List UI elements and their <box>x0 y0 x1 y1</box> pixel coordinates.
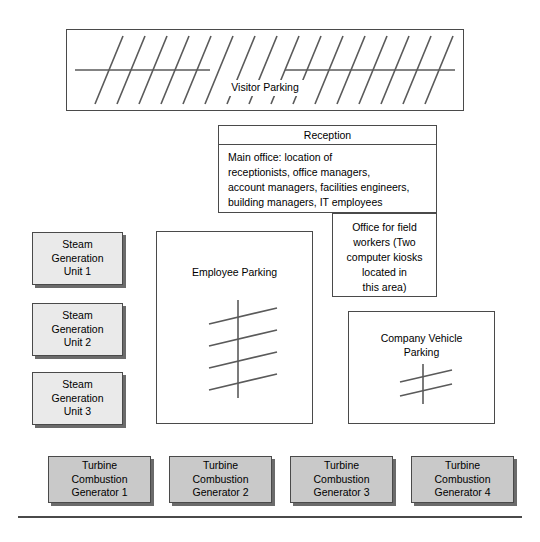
reception-body-line-2: receptionists, office managers, <box>228 165 370 180</box>
field-office-line-2: workers (Two <box>333 235 436 250</box>
employee-parking-label: Employee Parking <box>157 266 312 280</box>
site-boundary-line <box>18 516 522 518</box>
steam-generation-unit-2: Steam Generation Unit 2 <box>32 303 123 356</box>
company-vehicle-parking-area: Company Vehicle Parking <box>348 311 495 424</box>
steam-unit-1-label: Steam Generation Unit 1 <box>52 238 104 278</box>
employee-parking-area: Employee Parking <box>156 231 313 424</box>
field-office-line-1: Office for field <box>333 220 436 235</box>
turbine-1-label: Turbine Combustion Generator 1 <box>71 459 127 499</box>
turbine-combustion-generator-3: Turbine Combustion Generator 3 <box>290 456 393 503</box>
site-layout-diagram: Visitor Parking Reception Main office: l… <box>0 0 540 542</box>
turbine-combustion-generator-2: Turbine Combustion Generator 2 <box>169 456 272 503</box>
reception-body-line-4: building managers, IT employees <box>228 195 382 210</box>
company-vehicle-parking-label-line-1: Company Vehicle <box>349 332 494 346</box>
reception-body-line-3: account managers, facilities engineers, <box>228 180 410 195</box>
field-office-line-3: computer kiosks <box>333 250 436 265</box>
steam-unit-3-label: Steam Generation Unit 3 <box>52 378 104 418</box>
field-office-line-5: this area) <box>333 280 436 295</box>
visitor-parking-area: Visitor Parking <box>66 29 464 111</box>
employee-parking-stall-marks <box>157 232 312 423</box>
turbine-2-label: Turbine Combustion Generator 2 <box>192 459 248 499</box>
reception-body-line-1: Main office: location of <box>228 150 332 165</box>
turbine-combustion-generator-1: Turbine Combustion Generator 1 <box>48 456 151 503</box>
steam-generation-unit-1: Steam Generation Unit 1 <box>32 232 123 285</box>
steam-unit-2-label: Steam Generation Unit 2 <box>52 309 104 349</box>
company-vehicle-parking-label-line-2: Parking <box>349 346 494 360</box>
reception-area: Reception Main office: location of recep… <box>218 125 437 213</box>
field-worker-office-area: Office for field workers (Two computer k… <box>332 213 437 297</box>
turbine-combustion-generator-4: Turbine Combustion Generator 4 <box>411 456 514 503</box>
visitor-parking-stall-marks <box>67 30 463 110</box>
company-vehicle-parking-stall-marks <box>349 312 494 423</box>
field-office-line-4: located in <box>333 265 436 280</box>
turbine-3-label: Turbine Combustion Generator 3 <box>313 459 369 499</box>
steam-generation-unit-3: Steam Generation Unit 3 <box>32 372 123 425</box>
reception-divider <box>219 144 436 145</box>
turbine-4-label: Turbine Combustion Generator 4 <box>434 459 490 499</box>
visitor-parking-label: Visitor Parking <box>217 80 313 96</box>
reception-title: Reception <box>219 129 436 141</box>
